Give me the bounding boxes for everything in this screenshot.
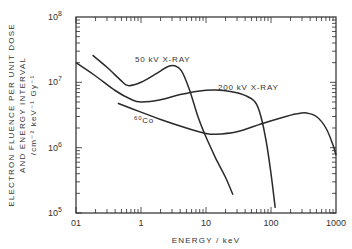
y-tick-labels: 105106107108 — [48, 10, 62, 218]
y-tick-label: 106 — [48, 141, 62, 153]
series-line-0 — [93, 55, 233, 195]
plot-frame — [76, 17, 336, 213]
series-label-50kv: 50 kV X-RAY — [135, 55, 190, 64]
series-label-200kv: 200 kV X-RAY — [218, 83, 279, 92]
series-line-2 — [118, 103, 336, 155]
svg-text:/cm⁻² keV⁻¹ Gy⁻¹: /cm⁻² keV⁻¹ Gy⁻¹ — [29, 75, 38, 156]
x-tick-label: 1 — [138, 218, 143, 228]
x-tick-label: 1000 — [326, 218, 346, 228]
x-tick-labels: 011101001000 — [71, 218, 346, 228]
y-tick-label: 105 — [48, 206, 62, 218]
y-tick-label: 108 — [48, 10, 62, 22]
series-label-60co: 60Co — [134, 115, 154, 125]
axis-ticks — [76, 17, 336, 213]
y-tick-label: 107 — [48, 75, 62, 87]
data-series — [76, 55, 336, 208]
x-tick-label: 10 — [201, 218, 211, 228]
y-axis-title: ELECTRON FLUENCE PER UNIT DOSE AND ENERG… — [7, 23, 38, 206]
x-tick-label: 01 — [71, 218, 81, 228]
x-axis-title: ENERGY / keV — [172, 236, 241, 245]
svg-text:AND ENERGY INTERVAL: AND ENERGY INTERVAL — [18, 57, 27, 173]
svg-text:ELECTRON FLUENCE PER UNIT DOSE: ELECTRON FLUENCE PER UNIT DOSE — [7, 23, 16, 206]
x-tick-label: 100 — [263, 218, 278, 228]
chart: 011101001000 105106107108 ENERGY / keV E… — [0, 0, 352, 249]
